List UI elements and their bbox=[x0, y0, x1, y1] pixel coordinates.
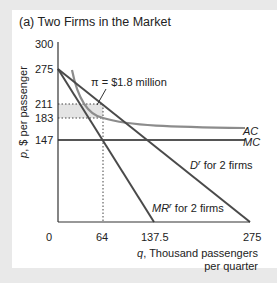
y-tick-211: 211 bbox=[35, 98, 53, 110]
y-tick-147: 147 bbox=[35, 134, 53, 146]
chart-svg: 300 275 211 183 147 0 64 137.5 275 p, $ … bbox=[0, 0, 277, 283]
y-tick-300: 300 bbox=[35, 38, 53, 50]
x-tick-64: 64 bbox=[96, 231, 108, 243]
x-tick-137: 137.5 bbox=[141, 231, 169, 243]
mc-label: MC bbox=[243, 136, 260, 148]
profit-label: π = $1.8 million bbox=[91, 76, 167, 88]
x-axis-label-line1: q, Thousand passengers bbox=[137, 247, 258, 259]
demand-label: Dr for 2 firms bbox=[190, 158, 253, 171]
y-axis-label: p, $ per passenger bbox=[17, 66, 29, 159]
y-tick-183: 183 bbox=[35, 112, 53, 124]
y-tick-275: 275 bbox=[35, 63, 53, 75]
mr-label: MRr for 2 firms bbox=[152, 201, 224, 214]
x-tick-0: 0 bbox=[46, 231, 52, 243]
demand-line bbox=[58, 69, 250, 222]
mr-line bbox=[58, 69, 154, 222]
x-axis-label-line2: per quarter bbox=[204, 260, 258, 272]
x-tick-275: 275 bbox=[243, 231, 261, 243]
